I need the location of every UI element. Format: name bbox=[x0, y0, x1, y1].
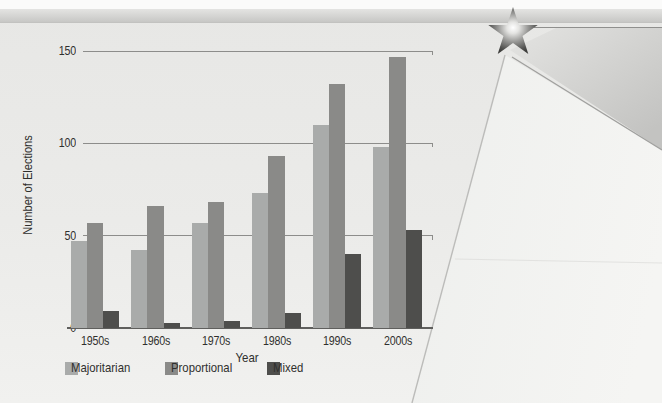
bar-majoritarian-1950s bbox=[71, 241, 87, 328]
bar-proportional-1980s bbox=[268, 156, 284, 328]
bar-majoritarian-2000s bbox=[373, 147, 389, 328]
x-category-label-1950s: 1950s bbox=[70, 334, 119, 348]
bar-mixed-1960s bbox=[164, 323, 180, 329]
gridline-150 bbox=[83, 51, 433, 52]
bar-mixed-1990s bbox=[345, 254, 361, 328]
bar-majoritarian-1980s bbox=[252, 193, 268, 328]
elections-bar-chart: Number of Elections Year 0501001501950s1… bbox=[0, 0, 662, 403]
bar-mixed-1970s bbox=[224, 321, 240, 328]
bar-proportional-2000s bbox=[389, 57, 405, 329]
bar-proportional-1990s bbox=[329, 84, 345, 328]
bar-mixed-1950s bbox=[103, 311, 119, 328]
bar-mixed-1980s bbox=[285, 313, 301, 328]
bar-mixed-2000s bbox=[406, 230, 422, 328]
legend-label-mixed: Mixed bbox=[273, 361, 303, 375]
gridline-end-tick-100 bbox=[432, 143, 433, 147]
x-category-label-2000s: 2000s bbox=[373, 334, 422, 348]
gridline-end-tick-150 bbox=[432, 51, 433, 55]
y-tick-label-100: 100 bbox=[38, 136, 76, 150]
y-tick-label-150: 150 bbox=[38, 44, 76, 58]
figure-page: Number of Elections Year 0501001501950s1… bbox=[0, 0, 662, 403]
bar-majoritarian-1990s bbox=[313, 125, 329, 328]
bar-majoritarian-1960s bbox=[131, 250, 147, 328]
bar-proportional-1950s bbox=[87, 223, 103, 328]
gridline-100 bbox=[83, 143, 433, 144]
y-axis-title: Number of Elections bbox=[21, 135, 35, 235]
x-category-label-1960s: 1960s bbox=[131, 334, 180, 348]
bar-majoritarian-1970s bbox=[192, 223, 208, 328]
x-category-label-1970s: 1970s bbox=[191, 334, 240, 348]
gridline-end-tick-50 bbox=[432, 236, 433, 240]
bar-proportional-1960s bbox=[147, 206, 163, 328]
legend-label-majoritarian: Majoritarian bbox=[71, 361, 130, 375]
legend-label-proportional: Proportional bbox=[171, 361, 232, 375]
bar-proportional-1970s bbox=[208, 202, 224, 328]
x-category-label-1980s: 1980s bbox=[252, 334, 301, 348]
x-category-label-1990s: 1990s bbox=[312, 334, 361, 348]
